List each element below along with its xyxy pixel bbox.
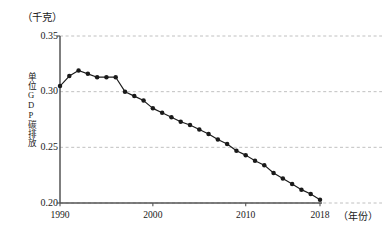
data-point — [281, 176, 286, 181]
data-point — [104, 75, 109, 80]
data-point — [113, 75, 118, 80]
data-point — [290, 182, 295, 187]
data-point — [206, 132, 211, 137]
data-point — [169, 115, 174, 120]
data-point — [262, 163, 267, 168]
data-point — [67, 74, 72, 79]
data-point — [160, 111, 165, 116]
data-point — [132, 94, 137, 99]
data-point — [197, 127, 202, 132]
data-point — [151, 106, 156, 111]
data-point — [86, 72, 91, 77]
plot-area — [0, 0, 391, 239]
data-point — [141, 98, 146, 103]
data-point — [243, 153, 248, 158]
data-point — [76, 68, 81, 73]
data-point — [253, 158, 258, 163]
data-point — [271, 171, 276, 176]
data-point — [188, 123, 193, 128]
data-point — [123, 89, 128, 94]
data-point — [95, 75, 100, 80]
data-point — [225, 142, 230, 147]
data-point — [178, 119, 183, 124]
data-point — [308, 192, 313, 197]
data-point — [234, 148, 239, 153]
data-point — [318, 197, 323, 202]
carbon-intensity-line-chart: （千克） 单位GDP碳排放 0.350.300.250.20 199020002… — [0, 0, 391, 239]
data-point — [58, 84, 63, 89]
data-point — [216, 137, 221, 142]
data-series-line — [60, 71, 320, 200]
data-point — [299, 187, 304, 192]
